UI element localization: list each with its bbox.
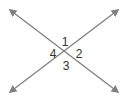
vertical-angles-diagram: 1 2 3 4 [0, 0, 126, 99]
angle-label-1: 1 [62, 35, 69, 49]
angle-label-2: 2 [76, 47, 83, 61]
angle-label-4: 4 [50, 47, 57, 61]
angle-label-3: 3 [63, 59, 70, 73]
diagram-svg: 1 2 3 4 [0, 0, 126, 99]
